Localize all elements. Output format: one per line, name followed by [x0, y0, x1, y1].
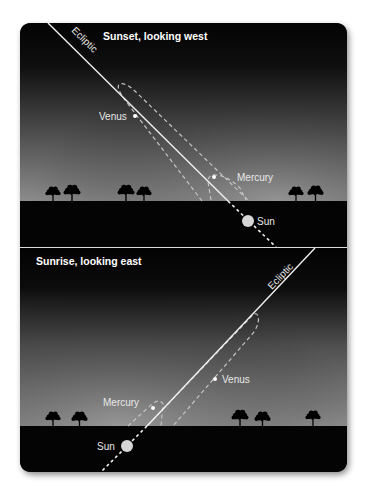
- sun-label: Sun: [257, 216, 275, 227]
- venus-label: Venus: [99, 111, 127, 122]
- mercury-label: Mercury: [103, 397, 139, 408]
- sky-glow: [20, 249, 347, 427]
- mercury-dot: [151, 406, 155, 410]
- sun-label: Sun: [97, 441, 115, 452]
- venus-dot: [133, 114, 137, 118]
- diagram-canvas: Sunset, looking west Ecliptic Venus Merc…: [0, 0, 368, 497]
- sunset-panel: Sunset, looking west Ecliptic Venus Merc…: [20, 23, 347, 247]
- inferior-planets-diagram: Sunset, looking west Ecliptic Venus Merc…: [0, 0, 368, 497]
- sun-disc: [242, 215, 254, 227]
- venus-dot: [213, 377, 217, 381]
- sky-glow: [20, 23, 347, 201]
- ground: [20, 201, 347, 247]
- ground: [20, 426, 347, 472]
- panel-title: Sunrise, looking east: [36, 255, 142, 267]
- mercury-label: Mercury: [237, 172, 273, 183]
- sun-disc: [121, 440, 133, 452]
- venus-label: Venus: [222, 374, 250, 385]
- sunrise-panel: Sunrise, looking east Ecliptic Venus Mer…: [20, 248, 347, 472]
- mercury-dot: [212, 175, 216, 179]
- panel-title: Sunset, looking west: [103, 30, 208, 42]
